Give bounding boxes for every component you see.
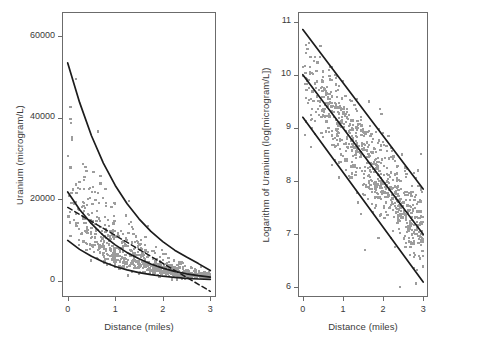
left-x-tick-label: 1 [95, 304, 135, 314]
left-y-axis-title: Uranium (microgram/L) [14, 105, 25, 205]
fit-line-mean-regression-line [303, 75, 423, 235]
right-y-tick-label: 11 [282, 15, 291, 25]
right-x-tick-label: 2 [363, 304, 403, 314]
left-y-tick-label: 0 [50, 274, 55, 284]
right-plot-canvas [242, 0, 484, 346]
right-x-tick-label: 0 [283, 304, 323, 314]
figure-container: Uranium (microgram/L) Distance (miles) 0… [0, 0, 484, 346]
axis-ticks [294, 23, 424, 302]
right-x-tick-label: 3 [403, 304, 443, 314]
fit-line-upper-regression-line [303, 30, 423, 190]
plot-clip-mask [0, 0, 242, 346]
left-y-tick-label: 40000 [30, 111, 55, 121]
right-x-axis-title: Distance (miles) [298, 321, 428, 332]
right-y-tick-label: 6 [286, 281, 291, 291]
right-y-tick-label: 10 [281, 68, 291, 78]
fit-line-upper-exponential-curve [68, 63, 211, 271]
right-y-tick-label: 9 [286, 121, 291, 131]
right-x-tick-label: 1 [323, 304, 363, 314]
left-x-tick-label: 3 [190, 304, 230, 314]
plot-clip-mask [242, 0, 484, 346]
right-y-axis-title: Logarithm of Uranium (log[microgram/L]) [260, 67, 271, 242]
chart-panel-left: Uranium (microgram/L) Distance (miles) 0… [0, 0, 242, 346]
left-y-tick-label: 60000 [30, 30, 55, 40]
left-x-tick-label: 0 [48, 304, 88, 314]
chart-panel-right: Logarithm of Uranium (log[microgram/L]) … [242, 0, 484, 346]
left-x-tick-label: 2 [143, 304, 183, 314]
right-y-tick-label: 7 [286, 228, 291, 238]
left-plot-canvas [0, 0, 242, 346]
left-y-tick-label: 20000 [30, 193, 55, 203]
right-y-tick-label: 8 [286, 175, 291, 185]
left-x-axis-title: Distance (miles) [62, 321, 216, 332]
